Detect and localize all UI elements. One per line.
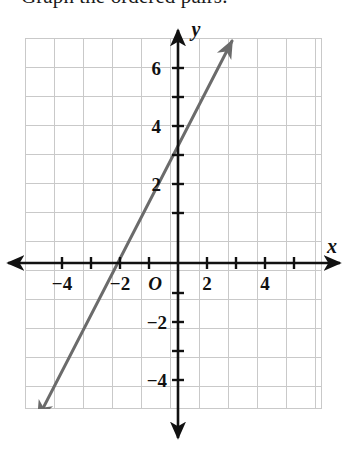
y-tick-label-pos6: 6 — [152, 58, 162, 79]
prompt-clip: Graph the ordered pairs. — [0, 0, 348, 15]
y-tick-label-pos2: 2 — [152, 174, 162, 195]
x-tick-label-neg4: −4 — [52, 273, 73, 294]
origin-label: O — [148, 273, 162, 294]
y-tick-label-neg2: −2 — [147, 312, 167, 333]
y-tick-label-pos4: 4 — [152, 116, 162, 137]
y-tick-label-neg4: −4 — [147, 370, 168, 391]
x-tick-label-pos2: 2 — [202, 273, 212, 294]
prompt-text: Graph the ordered pairs. — [21, 0, 341, 9]
x-axis-label: x — [326, 235, 337, 257]
worksheet-page: Graph the ordered pairs. — [0, 0, 348, 452]
y-axis-label: y — [190, 18, 201, 41]
x-tick-label-neg2: −2 — [110, 273, 130, 294]
graph-svg: y x O −4 −2 2 4 6 4 2 −2 −4 — [0, 14, 348, 452]
x-tick-label-pos4: 4 — [260, 273, 270, 294]
coordinate-graph: y x O −4 −2 2 4 6 4 2 −2 −4 — [0, 14, 348, 452]
